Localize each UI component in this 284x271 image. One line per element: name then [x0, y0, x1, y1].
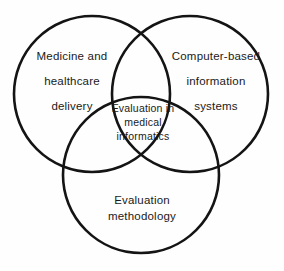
label-intersection-line-3: informatics — [96, 129, 190, 143]
label-evaluation-in-medical-informatics: Evaluation in medical informatics — [96, 101, 190, 143]
label-medicine-healthcare-line-2: healthcare — [16, 69, 128, 94]
label-intersection-line-2: medical — [96, 115, 190, 129]
venn-diagram: Medicine and healthcare delivery Compute… — [0, 0, 284, 271]
label-evaluation-methodology-line-2: methodology — [80, 208, 204, 224]
label-intersection-line-1: Evaluation in — [96, 101, 190, 115]
label-computer-based-line-2: information — [158, 69, 274, 94]
label-medicine-healthcare-line-1: Medicine and — [16, 44, 128, 69]
label-evaluation-methodology-line-1: Evaluation — [80, 192, 204, 208]
label-evaluation-methodology: Evaluation methodology — [80, 192, 204, 224]
label-computer-based-line-1: Computer-based — [158, 44, 274, 69]
